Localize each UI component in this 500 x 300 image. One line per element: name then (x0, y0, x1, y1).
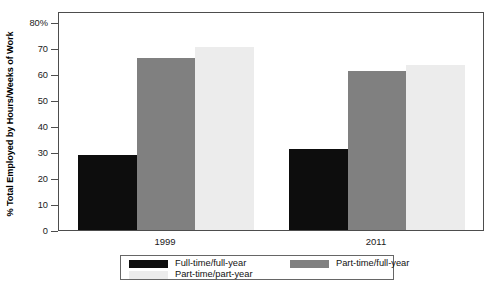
y-axis-tick (51, 23, 58, 24)
bar-2011-full-time-full-year (289, 149, 348, 230)
legend-swatch-icon (290, 260, 329, 268)
bar-2011-part-time-part-year (406, 65, 465, 230)
plot-inner (59, 13, 483, 230)
legend-item: Full-time/full-year (129, 258, 246, 269)
y-axis-tick-label: 50 (38, 97, 48, 106)
y-axis-tick-label: 80% (29, 19, 48, 28)
y-axis-tick (51, 49, 58, 50)
y-axis-tick-label: 20 (38, 175, 48, 184)
bar-2011-part-time-full-year (348, 71, 407, 230)
bar-1999-part-time-part-year (195, 47, 254, 230)
y-axis-tick-label: 10 (38, 201, 48, 210)
plot-area (58, 12, 484, 231)
bar-1999-full-time-full-year (78, 155, 137, 230)
y-axis-tick (51, 127, 58, 128)
y-axis-title: % Total Employed by Hours/Weeks of Work (2, 8, 18, 240)
legend-item: Part-time/full-year (290, 258, 409, 269)
y-axis-tick-label: 60 (38, 71, 48, 80)
y-axis-tick (51, 179, 58, 180)
chart-legend: Full-time/full-year Part-time/full-year … (120, 255, 394, 280)
y-axis-tick-label: 40 (38, 123, 48, 132)
y-axis-tick (51, 205, 58, 206)
y-axis-tick-label: 0 (43, 227, 48, 236)
y-axis-tick (51, 231, 58, 232)
legend-label: Part-time/part-year (175, 270, 253, 279)
bar-1999-part-time-full-year (137, 58, 196, 230)
bar-chart-figure: % Total Employed by Hours/Weeks of Work … (0, 0, 500, 300)
legend-label: Part-time/full-year (336, 259, 409, 268)
legend-item: Part-time/part-year (129, 269, 253, 280)
x-axis-group-label: 2011 (288, 236, 464, 247)
y-axis-tick (51, 101, 58, 102)
legend-swatch-icon (129, 260, 168, 268)
x-axis-group-label: 1999 (77, 236, 253, 247)
legend-label: Full-time/full-year (175, 259, 246, 268)
y-axis-tick-label: 70 (38, 45, 48, 54)
y-axis-tick-label: 30 (38, 149, 48, 158)
y-axis-tick (51, 153, 58, 154)
legend-swatch-icon (129, 271, 168, 279)
y-axis-tick (51, 75, 58, 76)
